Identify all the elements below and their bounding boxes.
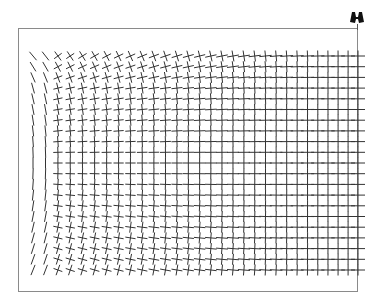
field-glyph (29, 52, 36, 60)
field-glyph (216, 158, 228, 169)
field-glyph (216, 61, 228, 72)
field-glyph (102, 115, 112, 126)
field-glyph (183, 211, 194, 222)
field-glyph (102, 179, 112, 190)
field-glyph (351, 243, 365, 254)
field-glyph (90, 62, 99, 72)
field-glyph (45, 200, 47, 211)
field-glyph (171, 243, 182, 254)
field-glyph (216, 93, 228, 104)
field-glyph (160, 104, 171, 115)
field-glyph (149, 200, 160, 211)
field-glyph (114, 93, 124, 104)
field-glyph (125, 72, 135, 83)
field-glyph (205, 115, 217, 126)
field-glyph (183, 254, 194, 265)
field-glyph (249, 83, 261, 94)
field-glyph (205, 83, 217, 94)
field-glyph (114, 200, 124, 211)
field-glyph (54, 72, 63, 82)
field-glyph (78, 222, 88, 233)
field-glyph (125, 254, 135, 265)
field-glyph (183, 61, 194, 72)
field-glyph (78, 115, 88, 126)
field-glyph (102, 190, 112, 201)
field-glyph (183, 200, 194, 211)
field-glyph (194, 83, 205, 94)
field-glyph (66, 115, 75, 126)
field-glyph (78, 158, 88, 169)
field-glyph (227, 83, 239, 94)
field-glyph (171, 158, 182, 169)
field-glyph (149, 93, 160, 104)
field-glyph (216, 211, 228, 222)
field-glyph (249, 147, 261, 158)
field-glyph (227, 232, 239, 243)
field-glyph (137, 265, 147, 276)
field-glyph (125, 179, 135, 190)
field-glyph (216, 136, 228, 147)
field-glyph (137, 61, 147, 71)
field-glyph (78, 211, 88, 222)
field-glyph (53, 93, 62, 104)
field-glyph (351, 254, 365, 265)
field-glyph (65, 147, 75, 158)
field-glyph (171, 83, 182, 94)
field-glyph (205, 222, 217, 233)
field-glyph (114, 115, 124, 126)
field-glyph (238, 61, 250, 72)
field-glyph (33, 179, 34, 190)
field-glyph (149, 61, 159, 72)
field-glyph (160, 93, 171, 104)
field-glyph (194, 61, 205, 72)
field-glyph (137, 211, 148, 222)
field-glyph (114, 72, 124, 83)
field-glyph (137, 168, 148, 179)
field-glyph (113, 158, 123, 169)
field-glyph (238, 115, 250, 126)
field-glyph (32, 190, 33, 201)
field-glyph (227, 200, 239, 211)
field-glyph (125, 200, 135, 211)
field-glyph (194, 168, 205, 179)
field-glyph (227, 190, 239, 201)
field-glyph (102, 232, 112, 243)
field-glyph (183, 265, 194, 276)
field-glyph (44, 222, 46, 233)
field-glyph (54, 52, 62, 61)
field-glyph (351, 83, 365, 94)
field-glyph (183, 232, 194, 243)
field-glyph (238, 51, 250, 62)
field-glyph (160, 168, 171, 179)
field-glyph (66, 243, 75, 254)
field-glyph (90, 168, 100, 179)
field-glyph (205, 190, 217, 201)
field-glyph (78, 104, 88, 115)
field-glyph (137, 93, 147, 104)
field-glyph (65, 179, 75, 190)
field-glyph (351, 115, 365, 126)
field-glyph (53, 104, 62, 115)
field-glyph (66, 265, 75, 275)
field-glyph (102, 147, 112, 158)
field-glyph (216, 147, 228, 158)
field-glyph (53, 115, 62, 126)
field-glyph (194, 147, 205, 158)
field-glyph (205, 125, 217, 136)
orientation-field (0, 0, 387, 305)
field-glyph (32, 115, 34, 126)
field-glyph (125, 104, 135, 115)
field-glyph (53, 158, 62, 169)
field-glyph (205, 265, 217, 276)
field-glyph (137, 104, 148, 115)
field-glyph (216, 179, 228, 190)
field-glyph (183, 147, 194, 158)
field-glyph (90, 51, 99, 61)
field-glyph (45, 211, 47, 222)
field-glyph (183, 115, 194, 126)
field-glyph (249, 200, 261, 211)
field-glyph (102, 200, 112, 211)
field-glyph (194, 265, 205, 276)
field-glyph (238, 125, 250, 136)
field-glyph (53, 147, 62, 158)
